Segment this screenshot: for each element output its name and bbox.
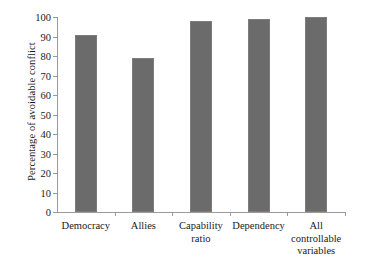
y-tick-mark <box>53 17 57 18</box>
y-tick-label: 30 <box>41 148 52 159</box>
y-tick-label: 0 <box>46 207 51 218</box>
bar <box>190 21 212 212</box>
y-tick-label: 10 <box>41 187 52 198</box>
x-tick-mark <box>230 212 231 216</box>
bar-chart: Percentage of avoidable conflict 0102030… <box>0 0 366 257</box>
y-tick-mark <box>53 134 57 135</box>
x-tick-mark <box>172 212 173 216</box>
y-tick-mark <box>53 115 57 116</box>
y-tick-mark <box>53 193 57 194</box>
y-tick-label: 40 <box>41 129 52 140</box>
y-tick-mark <box>53 173 57 174</box>
bar <box>305 17 327 212</box>
y-tick-label: 80 <box>41 51 52 62</box>
y-tick-label: 70 <box>41 70 52 81</box>
bar <box>248 19 270 212</box>
y-tick-mark <box>53 154 57 155</box>
x-axis-line <box>57 212 345 213</box>
x-axis-category-label: Allcontrollablevariables <box>287 220 345 257</box>
y-tick-mark <box>53 37 57 38</box>
y-tick-label: 100 <box>35 12 51 23</box>
x-axis-category-label: Allies <box>115 220 173 233</box>
y-tick-mark <box>53 212 57 213</box>
plot-area: 0102030405060708090100 DemocracyAlliesCa… <box>57 17 345 212</box>
x-tick-mark <box>115 212 116 216</box>
x-axis-category-label: Capabilityratio <box>172 220 230 245</box>
y-axis-line <box>57 17 58 212</box>
x-tick-mark <box>287 212 288 216</box>
x-tick-mark <box>345 212 346 216</box>
y-tick-label: 60 <box>41 90 52 101</box>
x-axis-category-label: Democracy <box>57 220 115 233</box>
x-axis-category-label: Dependency <box>230 220 288 233</box>
y-tick-label: 90 <box>41 31 52 42</box>
y-tick-mark <box>53 95 57 96</box>
bar <box>75 35 97 212</box>
y-tick-label: 50 <box>41 109 52 120</box>
y-tick-label: 20 <box>41 168 52 179</box>
y-tick-mark <box>53 56 57 57</box>
y-tick-mark <box>53 76 57 77</box>
y-axis-title: Percentage of avoidable conflict <box>26 8 37 216</box>
bar <box>132 58 154 212</box>
